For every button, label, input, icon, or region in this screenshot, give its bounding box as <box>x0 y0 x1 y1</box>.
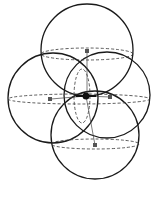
spheres-diagram <box>0 0 160 197</box>
marker-bottom <box>93 143 97 147</box>
axis-to-bottom <box>86 96 95 145</box>
marker-right <box>108 95 112 99</box>
marker-left <box>48 97 52 101</box>
marker-top <box>85 49 89 53</box>
